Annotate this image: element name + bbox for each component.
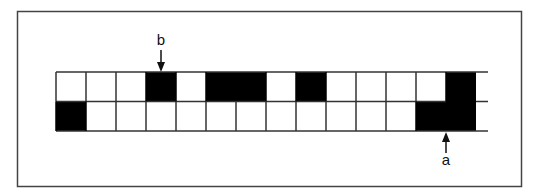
cell-top-10-empty xyxy=(356,72,386,102)
cell-bottom-12-filled xyxy=(416,102,446,132)
cell-top-3-filled xyxy=(146,72,176,102)
cell-top-5-filled xyxy=(206,72,236,102)
cell-bottom-11-empty xyxy=(386,102,416,132)
cell-bottom-10-empty xyxy=(356,102,386,132)
cell-bottom-13-filled xyxy=(446,102,476,132)
cell-bottom-0-filled xyxy=(56,102,86,132)
cell-bottom-7-empty xyxy=(266,102,296,132)
cell-top-7-empty xyxy=(266,72,296,102)
cell-top-2-empty xyxy=(116,72,146,102)
cell-top-11-empty xyxy=(386,72,416,102)
cell-top-1-empty xyxy=(86,72,116,102)
cell-top-13-filled xyxy=(446,72,476,102)
marker-b-label: b xyxy=(157,31,165,48)
cell-bottom-6-empty xyxy=(236,102,266,132)
cell-bottom-1-empty xyxy=(86,102,116,132)
cell-bottom-9-empty xyxy=(326,102,356,132)
cell-top-6-filled xyxy=(236,72,266,102)
cell-bottom-5-empty xyxy=(206,102,236,132)
cell-top-12-empty xyxy=(416,72,446,102)
cell-bottom-4-empty xyxy=(176,102,206,132)
cell-bottom-3-empty xyxy=(146,102,176,132)
cell-bottom-8-empty xyxy=(296,102,326,132)
cell-top-9-empty xyxy=(326,72,356,102)
cell-strip-diagram: b a xyxy=(0,0,538,193)
marker-a-label: a xyxy=(442,151,451,168)
cell-top-0-empty xyxy=(56,72,86,102)
cell-bottom-2-empty xyxy=(116,102,146,132)
cell-top-8-filled xyxy=(296,72,326,102)
merged-cell-fill xyxy=(446,100,476,103)
cell-top-4-empty xyxy=(176,72,206,102)
